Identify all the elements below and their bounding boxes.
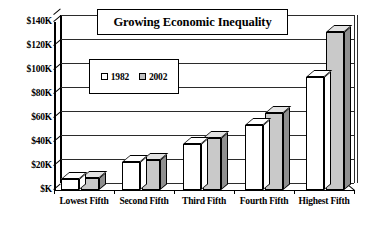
- bar-front-face: [61, 179, 79, 190]
- legend-swatch-2002-icon: [139, 73, 146, 80]
- right-wall-segment: [354, 87, 355, 111]
- y-tick-label: $K: [4, 184, 52, 194]
- legend-label-2002: 2002: [149, 72, 167, 82]
- bar-side-face: [160, 154, 167, 190]
- bar-side-face: [201, 139, 208, 190]
- x-tick: [114, 190, 115, 194]
- legend-item-2002: 2002: [139, 72, 167, 82]
- x-tick: [294, 190, 295, 194]
- x-axis-labels: Lowest FifthSecond FifthThird FifthFourt…: [0, 196, 371, 218]
- chart-title: Growing Economic Inequality: [113, 15, 271, 30]
- bar-highest-fifth-1982: [306, 77, 324, 190]
- right-wall-segment: [354, 111, 355, 135]
- chart-container: $140K$120K$100K$80K$60K$40K$20K$K Lowest…: [0, 0, 371, 225]
- legend-label-1982: 1982: [111, 72, 129, 82]
- chart-legend: 1982 2002: [89, 59, 179, 94]
- bar-side-face: [344, 26, 351, 190]
- right-wall-segment: [354, 39, 355, 63]
- y-tick-label: $80K: [4, 88, 52, 98]
- right-wall-segment: [354, 135, 355, 159]
- y-tick-label: $140K: [4, 16, 52, 26]
- legend-item-1982: 1982: [101, 72, 129, 82]
- y-tick-label: $60K: [4, 112, 52, 122]
- bar-side-face: [324, 71, 331, 190]
- right-wall-segment: [354, 159, 355, 183]
- right-wall-segment: [354, 15, 355, 39]
- bar-front-face: [122, 162, 140, 190]
- y-tick-label: $40K: [4, 136, 52, 146]
- legend-swatch-1982-icon: [101, 73, 108, 80]
- y-tick-label: $120K: [4, 40, 52, 50]
- x-axis-category-label: Highest Fifth: [288, 196, 360, 206]
- bar-third-fifth-1982: [183, 144, 201, 190]
- bar-fourth-fifth-1982: [245, 125, 263, 190]
- bar-side-face: [263, 119, 270, 190]
- right-wall-outer-edge: [357, 15, 358, 183]
- gridline: [61, 39, 354, 40]
- x-axis-baseline: [54, 190, 354, 191]
- y-tick-label: $100K: [4, 64, 52, 74]
- bar-side-face: [221, 133, 228, 190]
- x-tick: [174, 190, 175, 194]
- bar-front-face: [183, 144, 201, 190]
- bar-second-fifth-1982: [122, 162, 140, 190]
- y-axis-labels: $140K$120K$100K$80K$60K$40K$20K$K: [0, 0, 52, 225]
- bar-lowest-fifth-1982: [61, 179, 79, 190]
- bar-front-face: [245, 125, 263, 190]
- y-tick-label: $20K: [4, 160, 52, 170]
- x-tick: [354, 190, 355, 194]
- x-tick: [234, 190, 235, 194]
- bar-front-face: [306, 77, 324, 190]
- x-tick-origin: [54, 190, 55, 194]
- bar-side-face: [283, 107, 290, 190]
- chart-title-box: Growing Economic Inequality: [97, 9, 288, 35]
- right-wall-segment: [354, 63, 355, 87]
